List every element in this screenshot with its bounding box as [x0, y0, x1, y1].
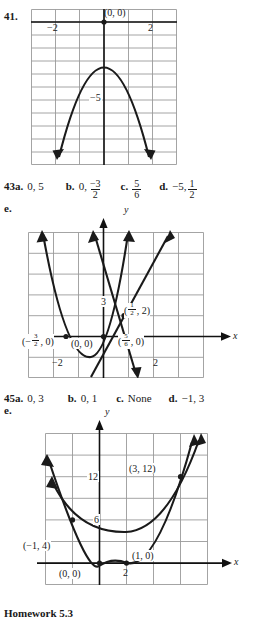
answer-43d-letter: d. [159, 180, 168, 192]
point-label-neg3over2-0-43: ( − 3 2 , 0) [22, 334, 54, 349]
x-axis-arrow-43 [221, 332, 231, 341]
point-label-3-12-45: (3, 12) [128, 463, 157, 474]
answer-43b-prefix: 0, [79, 180, 87, 192]
answer-43d-numerator: 1 [188, 179, 197, 189]
point-label-fraction-43d: 1 2 [128, 302, 136, 317]
tick-label-neg5-41: −5 [89, 92, 102, 103]
y-axis-arrow-45 [95, 420, 103, 430]
arrow-left-41 [53, 149, 65, 160]
tick-label-neg2-43: −2 [52, 357, 63, 368]
point-label-0-0-45: (0, 0) [58, 568, 82, 579]
point-0-0-43 [101, 334, 106, 339]
answer-45d-letter: d. [169, 392, 178, 404]
parabola-steep-curve-45 [49, 442, 192, 567]
point-label-tail-43a: , 0) [40, 336, 53, 347]
problem-43-number: 43a. [4, 180, 23, 192]
problem-45-number: 45a. [4, 392, 23, 404]
tick-label-2-43: 2 [153, 357, 158, 368]
point-label-tail-43c: , 0) [131, 336, 144, 347]
answer-45d: −1, 3 [181, 392, 204, 404]
point-1-0-45 [124, 561, 129, 566]
y-axis-label-45: y [105, 406, 109, 417]
page-footer: Homework 5.3 [4, 607, 73, 619]
point-neg3over2-0-43 [63, 334, 68, 339]
answer-43c-numerator: 5 [132, 179, 141, 189]
answer-45b: 0, 1 [81, 392, 98, 404]
problem-43-graph [28, 216, 243, 378]
arrow-steep-parabola-left-45 [41, 454, 54, 467]
x-axis-label-45: x [234, 556, 238, 567]
point-label-open-paren-43c: ( [118, 336, 121, 347]
vertex-point-41 [101, 19, 106, 24]
problem-43e-label: e. [4, 202, 12, 214]
tick-label-2-41: 2 [148, 22, 153, 33]
answer-45a: 0, 3 [27, 392, 44, 404]
answer-43c-fraction: 5 6 [132, 179, 141, 200]
answer-43d-prefix: −5, [172, 180, 186, 192]
point-neg1-4-45 [70, 517, 75, 522]
point-3-12-45 [178, 474, 183, 479]
x-axis-arrow-45 [222, 559, 232, 568]
answer-43b-denominator: 2 [91, 189, 100, 200]
answer-43c-letter: c. [121, 180, 129, 192]
point-label-1over2-2-43: ( 1 2 , 2) [124, 303, 150, 318]
tick-label-12-45: 12 [87, 471, 99, 482]
point-label-open-paren-43d: ( [124, 305, 127, 316]
arrow-parabola-right-43 [123, 230, 135, 242]
answer-45c: None [128, 392, 152, 404]
point-0-0-45 [97, 561, 102, 566]
point-label-num-43d: 1 [128, 302, 136, 309]
arrow-parabola-left-43 [37, 230, 49, 243]
point-label-0-0-43: (0, 0) [70, 338, 94, 349]
point-label-den-43c: 6 [122, 340, 130, 348]
answer-43b-fraction: −3 2 [88, 179, 103, 200]
point-label-num-43c: 5 [122, 333, 130, 340]
answer-key-page: 41. [0, 0, 273, 632]
arrow-line-falling-bottom-43 [131, 367, 142, 378]
problem-43-answer-row: 43a. 0, 5 b. 0, −3 2 c. 5 6 d. −5, 1 2 [4, 180, 273, 201]
answer-45b-letter: b. [68, 392, 77, 404]
graph-43-svg [28, 216, 243, 378]
problem-45-answer-row: 45a. 0, 3 b. 0, 1 c. None d. −1, 3 [4, 392, 273, 404]
point-label-5over6-0-43: ( 5 6 , 0) [118, 334, 144, 349]
answer-43b-letter: b. [66, 180, 75, 192]
point-label-tail-43d: , 2) [137, 305, 150, 316]
y-axis-label-43: y [124, 204, 128, 215]
tick-label-6-45: 6 [93, 514, 100, 525]
point-label-sign-43a: − [25, 336, 31, 347]
tick-label-neg2-41: −2 [47, 22, 58, 33]
arrow-right-41 [144, 149, 156, 160]
answer-45c-letter: c. [116, 392, 124, 404]
problem-41-number: 41. [4, 10, 18, 22]
x-axis-label-43: x [233, 330, 237, 341]
answer-43d-denominator: 2 [188, 189, 197, 200]
arrow-flat-parabola-right-45 [196, 433, 206, 446]
y-axis-arrow-43 [99, 218, 107, 228]
arrow-line-rising-43 [165, 230, 175, 243]
point-label-num-43a: 3 [32, 333, 40, 340]
tick-label-2-45: 2 [123, 567, 128, 578]
point-label-0-0-41: (0, 0) [104, 7, 126, 18]
tick-label-3-43: 3 [100, 296, 107, 307]
point-label-fraction-43a: 3 2 [32, 333, 40, 348]
point-label-neg1-4-45: (−1, 4) [22, 540, 51, 551]
answer-43c-denominator: 6 [132, 189, 141, 200]
problem-45e-label: e. [4, 404, 12, 416]
point-label-den-43a: 2 [32, 340, 40, 348]
point-label-fraction-43c: 5 6 [122, 333, 130, 348]
parabola-flat-curve-45 [53, 440, 199, 532]
answer-43b-numerator: −3 [88, 179, 103, 189]
point-label-den-43d: 2 [128, 309, 136, 317]
answer-43d-fraction: 1 2 [188, 179, 197, 200]
point-label-1-0-45: (1, 0) [131, 550, 155, 561]
answer-43a: 0, 5 [27, 180, 44, 192]
